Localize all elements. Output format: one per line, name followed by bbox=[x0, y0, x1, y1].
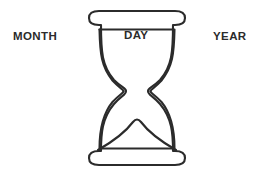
label-year: YEAR bbox=[213, 31, 247, 43]
sand-mound bbox=[98, 120, 176, 151]
label-day: DAY bbox=[124, 30, 148, 42]
hourglass-icon bbox=[0, 0, 270, 176]
diagram-canvas: MONTH DAY YEAR bbox=[0, 0, 270, 176]
label-month: MONTH bbox=[13, 31, 57, 43]
hourglass-inner-upper-left-wall bbox=[100, 30, 124, 92]
